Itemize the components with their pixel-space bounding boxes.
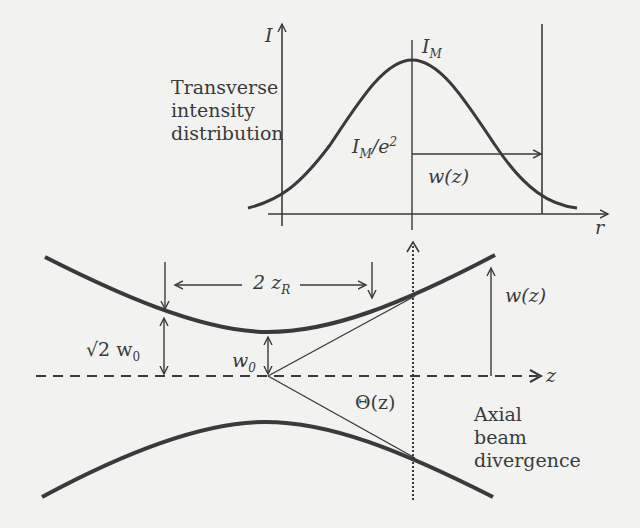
transverse-title: Transverse intensity distribution	[171, 76, 284, 145]
title-line-2: intensity	[171, 99, 284, 122]
caption-line-2: beam	[474, 426, 581, 449]
radius-axis-label: r	[595, 218, 604, 237]
beam-radius-label: w(z)	[505, 286, 546, 305]
upper-asymptote-line	[268, 296, 415, 376]
lower-asymptote-line	[268, 376, 415, 458]
z-axis-label: z	[546, 366, 556, 385]
title-line-1: Transverse	[171, 76, 284, 99]
peak-intensity-label: IM	[422, 37, 442, 60]
gaussian-beam-diagram: I Transverse intensity distribution IM I…	[0, 0, 640, 528]
divergence-caption: Axial beam divergence	[474, 403, 581, 472]
intensity-axis-label: I	[265, 26, 273, 45]
caption-line-3: divergence	[474, 449, 581, 472]
caption-line-1: Axial	[474, 403, 581, 426]
rayleigh-range-label: 2 zR	[253, 273, 290, 296]
beam-width-label: w(z)	[428, 167, 469, 186]
title-line-3: distribution	[171, 122, 284, 145]
lower-beam-envelope	[42, 422, 493, 497]
divergence-angle-label: Θ(z)	[355, 393, 395, 412]
sqrt2-waist-label: √2 w0	[86, 340, 140, 363]
threshold-intensity-label: IM/e2	[352, 136, 397, 160]
waist-label: w0	[232, 351, 256, 374]
